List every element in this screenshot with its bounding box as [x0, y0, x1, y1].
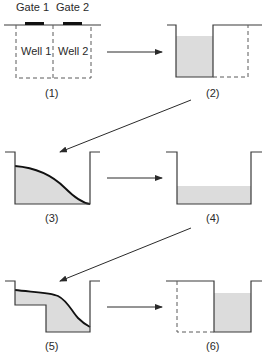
charge-transfer-diagram: Gate 1 Gate 2 Well 1 Well 2 (1) (2) (3) …	[0, 0, 265, 359]
charge-distribution	[15, 166, 90, 204]
collapsed-well-outline	[177, 281, 214, 332]
charge-distribution	[15, 290, 90, 332]
caption-6: (6)	[206, 340, 219, 352]
gate-2-label: Gate 2	[56, 1, 89, 13]
arrow-2-to-3	[60, 100, 191, 152]
gate-1-label: Gate 1	[16, 1, 49, 13]
panel-3: (3)	[5, 152, 100, 224]
caption-2: (2)	[206, 87, 219, 99]
caption-3: (3)	[45, 212, 58, 224]
panel-5: (5)	[5, 281, 100, 352]
charge-packet	[176, 36, 213, 77]
gate-2-electrode	[63, 22, 82, 25]
well-2-label: Well 2	[58, 45, 88, 57]
arrow-4-to-5	[60, 228, 191, 281]
panel-6: (6)	[166, 281, 262, 352]
gate-1-electrode	[25, 22, 44, 25]
charge-packet	[214, 293, 251, 332]
charge-packet	[177, 186, 251, 204]
panel-1: Gate 1 Gate 2 Well 1 Well 2 (1)	[4, 1, 101, 99]
caption-4: (4)	[206, 212, 219, 224]
caption-5: (5)	[45, 340, 58, 352]
panel-4: (4)	[166, 152, 262, 224]
panel-2: (2)	[167, 25, 262, 99]
well-1-label: Well 1	[21, 45, 51, 57]
collapsed-well-outline	[213, 25, 248, 77]
caption-1: (1)	[45, 87, 58, 99]
